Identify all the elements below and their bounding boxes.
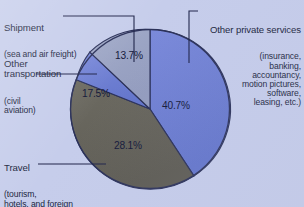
- label-travel-sub: (tourism, hotels, and foreign entertainm…: [4, 190, 73, 207]
- label-other-transportation-sub: (civil aviation): [4, 97, 61, 115]
- label-other-transportation-head: Other transportation: [4, 59, 61, 80]
- label-other-private-services-head: Other private services: [189, 25, 301, 35]
- value-label-travel: 28.1%: [114, 140, 142, 151]
- label-other-private-services: Other private services (insurance, banki…: [189, 8, 301, 125]
- value-label-other-transportation: 17.5%: [82, 88, 110, 99]
- pie-chart-figure: Shipment (sea and air freight) Other tra…: [0, 0, 304, 207]
- label-other-private-services-sub: (insurance, banking, accountancy, motion…: [189, 52, 301, 107]
- value-label-other-private-services: 40.7%: [162, 100, 190, 111]
- label-other-transportation: Other transportation (civil aviation): [4, 42, 61, 132]
- label-travel: Travel (tourism, hotels, and foreign ent…: [4, 146, 73, 207]
- label-shipment-head: Shipment: [4, 23, 76, 33]
- label-travel-head: Travel: [4, 163, 73, 173]
- value-label-shipment: 13.7%: [115, 50, 143, 61]
